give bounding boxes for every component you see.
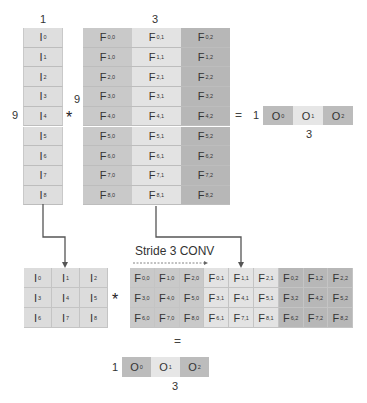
- output-cell-bottom: O0: [122, 357, 151, 377]
- convolution-operator-bottom: *: [112, 291, 118, 309]
- cell-symbol: F: [258, 292, 265, 304]
- cell-index: 0,0: [142, 275, 150, 281]
- cell-symbol: F: [233, 292, 240, 304]
- cell-symbol: F: [333, 272, 340, 284]
- cell-symbol: F: [159, 292, 166, 304]
- cell-index: 7,2: [316, 315, 324, 321]
- cell-index: 2,1: [266, 275, 274, 281]
- cell-index: 4,1: [241, 295, 249, 301]
- cell-index: 2: [94, 275, 97, 281]
- filter-grid-cell: F7,1: [229, 308, 254, 328]
- cell-symbol: F: [308, 312, 315, 324]
- output-cell-bottom: O1: [151, 357, 180, 377]
- output-cell-bottom: O2: [180, 357, 209, 377]
- filter-grid-cell: F5,2: [328, 288, 353, 308]
- cell-index: 2,0: [192, 275, 200, 281]
- cell-symbol: F: [209, 292, 216, 304]
- cell-symbol: F: [159, 312, 166, 324]
- cell-index: 0,2: [291, 275, 299, 281]
- cell-symbol: F: [333, 292, 340, 304]
- input-grid-cell: I4: [52, 288, 80, 308]
- cell-symbol: F: [159, 272, 166, 284]
- cell-symbol: F: [333, 312, 340, 324]
- arrow-filter-reshape: [156, 206, 244, 268]
- filter-grid-cell: F6,2: [279, 308, 304, 328]
- cell-index: 1,2: [316, 275, 324, 281]
- cell-index: 1,0: [167, 275, 175, 281]
- cell-index: 0: [140, 364, 143, 370]
- input-grid-cell: I1: [52, 268, 80, 288]
- cell-index: 4: [66, 295, 69, 301]
- cell-symbol: F: [134, 292, 141, 304]
- output-width-label-bottom: 3: [170, 380, 180, 392]
- cell-symbol: F: [258, 272, 265, 284]
- cell-index: 3,1: [216, 295, 224, 301]
- equals-sign-bottom: =: [174, 334, 181, 348]
- input-grid-cell: I2: [80, 268, 108, 288]
- cell-symbol: O: [130, 361, 139, 373]
- cell-symbol: I: [62, 312, 65, 324]
- filter-grid-cell: F1,0: [155, 268, 180, 288]
- cell-index: 3,0: [142, 295, 150, 301]
- filter-grid-cell: F1,1: [229, 268, 254, 288]
- cell-index: 3,2: [291, 295, 299, 301]
- cell-symbol: F: [134, 312, 141, 324]
- cell-symbol: I: [90, 312, 93, 324]
- cell-symbol: I: [62, 272, 65, 284]
- cell-index: 3: [38, 295, 41, 301]
- cell-symbol: F: [283, 292, 290, 304]
- cell-symbol: F: [184, 292, 191, 304]
- filter-grid-cell: F6,0: [130, 308, 155, 328]
- filter-grid-cell: F3,1: [204, 288, 229, 308]
- cell-index: 2: [198, 364, 201, 370]
- output-height-label-bottom: 1: [110, 361, 120, 373]
- cell-symbol: I: [90, 292, 93, 304]
- input-grid-cell: I5: [80, 288, 108, 308]
- cell-symbol: F: [209, 272, 216, 284]
- cell-index: 5,0: [192, 295, 200, 301]
- cell-symbol: I: [34, 272, 37, 284]
- cell-symbol: F: [283, 312, 290, 324]
- cell-symbol: F: [308, 272, 315, 284]
- cell-index: 2,2: [340, 275, 348, 281]
- cell-index: 8,2: [340, 315, 348, 321]
- filter-grid-cell: F2,2: [328, 268, 353, 288]
- filter-grid-cell: F2,1: [254, 268, 279, 288]
- arrow-input-reshape: [43, 204, 68, 268]
- cell-symbol: O: [188, 361, 197, 373]
- cell-index: 6,2: [291, 315, 299, 321]
- cell-index: 1: [66, 275, 69, 281]
- cell-index: 6,1: [216, 315, 224, 321]
- cell-index: 8,0: [192, 315, 200, 321]
- cell-index: 4,0: [167, 295, 175, 301]
- cell-index: 8: [94, 315, 97, 321]
- input-grid-cell: I8: [80, 308, 108, 328]
- cell-index: 1,1: [241, 275, 249, 281]
- filter-grid-cell: F0,2: [279, 268, 304, 288]
- cell-symbol: O: [159, 361, 168, 373]
- cell-index: 5,1: [266, 295, 274, 301]
- filter-grid-cell: F7,2: [304, 308, 329, 328]
- filter-grid-cell: F3,2: [279, 288, 304, 308]
- cell-symbol: F: [184, 312, 191, 324]
- connector-arrows: [0, 0, 367, 403]
- filter-grid-cell: F5,0: [180, 288, 205, 308]
- input-grid-cell: I0: [24, 268, 52, 288]
- cell-symbol: I: [90, 272, 93, 284]
- cell-index: 5,2: [340, 295, 348, 301]
- cell-symbol: I: [62, 292, 65, 304]
- cell-index: 0: [38, 275, 41, 281]
- input-grid-cell: I7: [52, 308, 80, 328]
- cell-symbol: I: [34, 292, 37, 304]
- cell-symbol: F: [134, 272, 141, 284]
- filter-grid-cell: F2,0: [180, 268, 205, 288]
- input-grid-cell: I3: [24, 288, 52, 308]
- cell-index: 6: [38, 315, 41, 321]
- cell-index: 7,0: [167, 315, 175, 321]
- filter-grid-cell: F0,1: [204, 268, 229, 288]
- cell-index: 0,1: [216, 275, 224, 281]
- filter-grid-cell: F6,1: [204, 308, 229, 328]
- cell-index: 5: [94, 295, 97, 301]
- filter-grid-cell: F0,0: [130, 268, 155, 288]
- cell-symbol: I: [34, 312, 37, 324]
